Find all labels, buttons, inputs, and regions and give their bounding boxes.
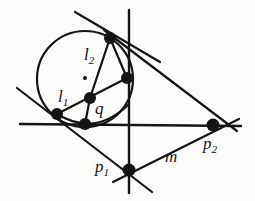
label-p2: p2 (203, 135, 217, 152)
label-p1: p1 (95, 158, 109, 175)
label-p2-base: p (203, 134, 212, 153)
circle-center-dot (83, 76, 87, 80)
point-p1-dot (123, 164, 136, 177)
label-p2-sub: 2 (212, 143, 218, 155)
geometry-canvas (0, 0, 255, 201)
geometry-figure: l2 l1 q p1 p2 m (0, 0, 255, 201)
point-left-vertex (51, 108, 63, 120)
label-l1-sub: 1 (63, 96, 69, 108)
point-p2-dot (207, 119, 220, 132)
label-m-base: m (165, 147, 177, 166)
label-p1-sub: 1 (104, 166, 110, 178)
label-q-base: q (95, 99, 104, 118)
point-top-vertex (104, 32, 116, 44)
point-lower-left-node (79, 118, 91, 130)
label-l2-sub: 2 (89, 54, 95, 66)
label-l2: l2 (84, 46, 94, 63)
label-p1-base: p (95, 157, 104, 176)
label-l1: l1 (58, 88, 68, 105)
point-right-mid-vertex (121, 72, 133, 84)
label-m: m (165, 148, 177, 165)
line-l1-extended (17, 88, 152, 192)
label-q: q (95, 100, 104, 117)
